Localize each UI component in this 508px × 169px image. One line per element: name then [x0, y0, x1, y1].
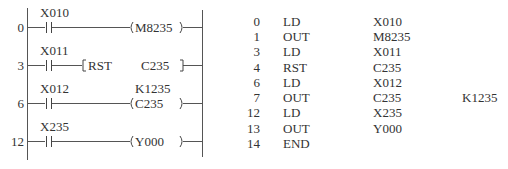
ladder-diagram: 0 X010 M8235 3 X011 RST C235 6 X012 K123… — [0, 0, 215, 169]
opcode: OUT — [283, 90, 310, 105]
constant-label: K1235 — [135, 82, 170, 96]
opcode: RST — [283, 60, 307, 75]
constant: K1235 — [462, 90, 497, 105]
step-number: 6 — [230, 75, 260, 90]
instruction-label: RST — [88, 59, 112, 73]
step-number: 6 — [4, 97, 24, 111]
instruction-list: 0 LD X010 1 OUT M8235 3 LD X011 4 RST C2… — [230, 14, 508, 164]
step-number: 3 — [230, 44, 260, 59]
opcode: END — [283, 136, 310, 151]
step-number: 3 — [4, 59, 24, 73]
step-number: 4 — [230, 60, 260, 75]
opcode: LD — [283, 44, 300, 59]
opcode: LD — [283, 14, 300, 29]
operand: X012 — [373, 75, 402, 90]
step-number: 7 — [230, 90, 260, 105]
step-number: 1 — [230, 29, 260, 44]
operand: X011 — [373, 44, 401, 59]
operand: C235 — [373, 60, 401, 75]
operand: C235 — [373, 90, 401, 105]
operand: Y000 — [373, 121, 402, 136]
step-number: 0 — [230, 14, 260, 29]
operand-label: C235 — [141, 59, 169, 73]
coil-label: Y000 — [135, 135, 164, 149]
coil-label: C235 — [135, 97, 163, 111]
opcode: OUT — [283, 121, 310, 136]
coil-label: M8235 — [135, 21, 173, 35]
contact-label: X012 — [40, 82, 69, 96]
contact-label: X010 — [40, 6, 69, 20]
step-number: 13 — [230, 121, 260, 136]
step-number: 0 — [4, 21, 24, 35]
ladder-wiring — [0, 0, 215, 169]
operand: X235 — [373, 105, 402, 120]
contact-label: X011 — [40, 44, 68, 58]
step-number: 14 — [230, 136, 260, 151]
step-number: 12 — [230, 105, 260, 120]
contact-label: X235 — [40, 120, 69, 134]
operand: M8235 — [373, 29, 411, 44]
opcode: LD — [283, 105, 300, 120]
opcode: LD — [283, 75, 300, 90]
operand: X010 — [373, 14, 402, 29]
opcode: OUT — [283, 29, 310, 44]
step-number: 12 — [4, 135, 24, 149]
